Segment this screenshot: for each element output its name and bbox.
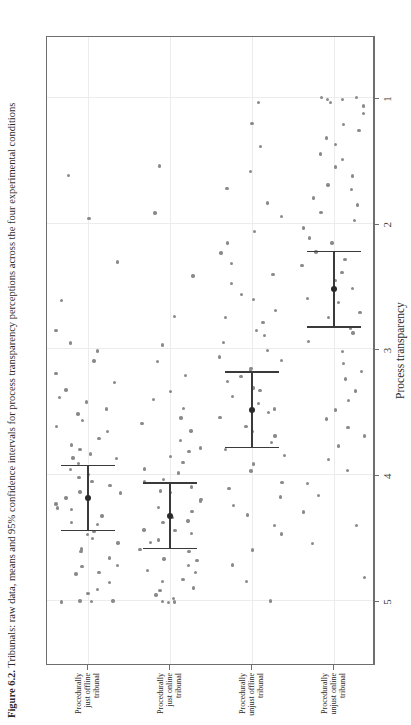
data-point <box>259 145 262 148</box>
data-point <box>263 334 266 337</box>
data-point <box>249 367 252 370</box>
data-point <box>181 461 184 464</box>
data-point <box>225 187 228 190</box>
data-point <box>230 282 233 285</box>
data-point <box>76 413 79 416</box>
data-point <box>327 316 330 319</box>
y-tick <box>87 665 88 670</box>
data-point <box>311 542 314 545</box>
data-point <box>161 600 164 603</box>
x-tick <box>374 98 379 99</box>
data-point <box>70 444 73 447</box>
data-point <box>70 508 73 511</box>
data-point <box>106 430 109 433</box>
confidence-interval-cap <box>61 530 115 531</box>
data-point <box>96 523 99 526</box>
data-point <box>60 600 63 603</box>
data-point <box>273 434 276 437</box>
data-point <box>261 321 264 324</box>
data-point <box>245 580 248 583</box>
data-point <box>116 260 119 263</box>
data-point <box>280 215 283 218</box>
data-point <box>56 506 59 509</box>
data-point <box>159 490 162 493</box>
data-point <box>152 398 155 401</box>
data-point <box>357 129 360 132</box>
data-point <box>334 165 337 168</box>
data-point <box>119 491 122 494</box>
data-point <box>218 416 221 419</box>
x-tick-label: 3 <box>381 348 393 354</box>
data-point <box>173 315 176 318</box>
category-gridline <box>252 37 253 664</box>
data-point <box>81 419 84 422</box>
data-point <box>231 563 234 566</box>
data-point <box>325 136 328 139</box>
data-point <box>153 211 156 214</box>
data-point <box>334 408 337 411</box>
data-point <box>307 340 310 343</box>
data-point <box>351 331 354 334</box>
y-tick <box>251 665 252 670</box>
data-point <box>54 329 57 332</box>
data-point <box>344 377 347 380</box>
data-point <box>340 271 343 274</box>
mean-marker <box>331 286 337 292</box>
data-point <box>54 372 57 375</box>
data-point <box>64 388 67 391</box>
data-point <box>108 484 111 487</box>
data-point <box>182 407 185 410</box>
data-point <box>255 329 258 332</box>
data-point <box>306 297 309 300</box>
data-point <box>116 564 119 567</box>
data-point <box>358 311 361 314</box>
confidence-interval-cap <box>225 447 279 448</box>
data-point <box>319 211 322 214</box>
data-point <box>105 407 108 410</box>
data-point <box>342 362 345 365</box>
data-point <box>67 174 70 177</box>
x-tick-label: 1 <box>381 96 393 102</box>
data-point <box>69 468 72 471</box>
data-point <box>191 274 194 277</box>
data-point <box>224 316 227 319</box>
data-point <box>252 462 255 465</box>
confidence-interval-cap <box>61 465 115 466</box>
data-point <box>226 241 229 244</box>
confidence-interval-cap <box>307 251 361 252</box>
mean-marker <box>249 407 255 413</box>
data-point <box>173 529 176 532</box>
data-point <box>77 476 80 479</box>
data-point <box>312 196 315 199</box>
x-tick <box>374 601 379 602</box>
data-point <box>138 548 141 551</box>
data-point <box>189 429 192 432</box>
x-tick-label: 4 <box>381 474 393 480</box>
data-point <box>169 455 172 458</box>
data-point <box>161 521 164 524</box>
data-point <box>58 396 61 399</box>
data-point <box>226 380 229 383</box>
data-point <box>240 293 243 296</box>
data-point <box>74 572 77 575</box>
data-point <box>162 478 165 481</box>
x-tick-label: 5 <box>381 599 393 605</box>
category-label: Procedurally just offline tribunal <box>74 673 101 725</box>
data-point <box>325 417 328 420</box>
data-point <box>89 452 92 455</box>
data-point <box>317 494 320 497</box>
data-point <box>60 299 63 302</box>
figure-root: Figure 6.2. Tribunals: raw data, means a… <box>0 0 411 725</box>
data-point <box>362 104 365 107</box>
data-point <box>156 360 159 363</box>
data-point <box>90 600 93 603</box>
data-point <box>158 164 161 167</box>
data-point <box>342 123 345 126</box>
data-point <box>157 506 160 509</box>
data-point <box>54 502 57 505</box>
data-point <box>172 597 175 600</box>
data-point <box>330 241 333 244</box>
data-point <box>356 203 359 206</box>
data-point <box>355 524 358 527</box>
data-point <box>271 273 274 276</box>
